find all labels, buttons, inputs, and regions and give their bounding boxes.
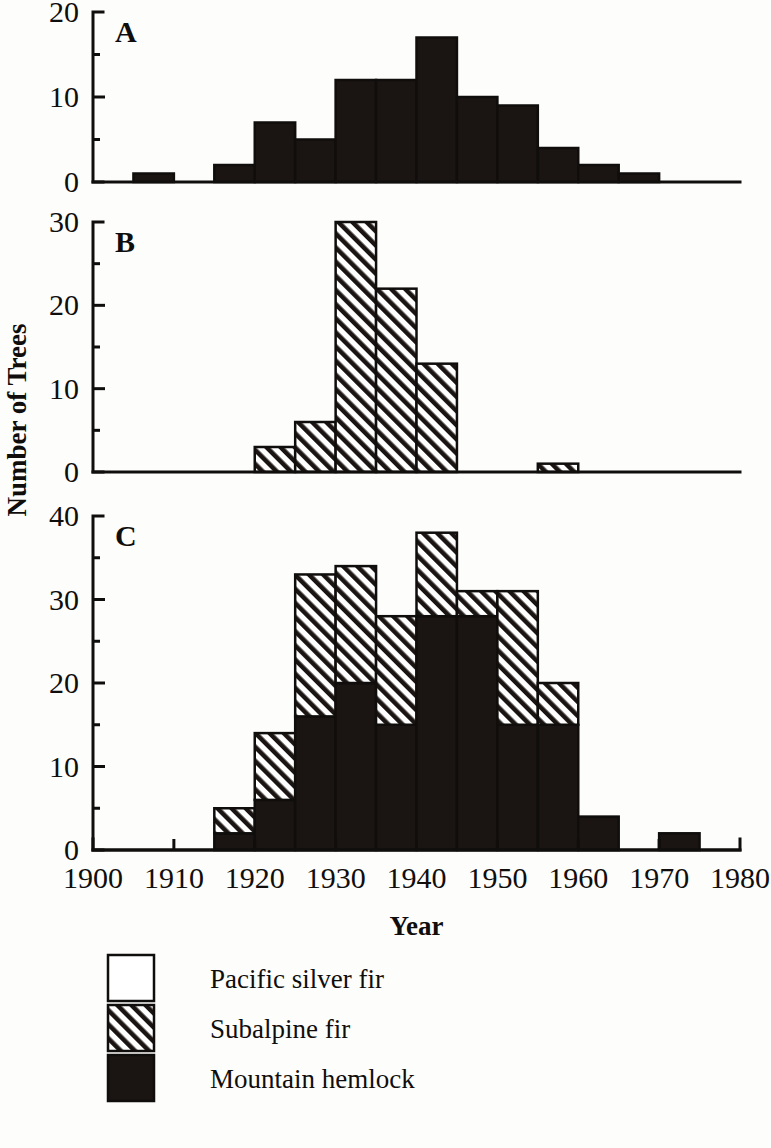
bar	[295, 422, 335, 472]
y-tick-label: 10	[49, 372, 79, 405]
bar-segment	[295, 716, 335, 850]
x-tick-label: 1960	[548, 861, 608, 894]
bar-segment	[417, 533, 457, 617]
bar-segment	[497, 725, 537, 850]
x-tick-label: 1950	[467, 861, 527, 894]
y-tick-label: 40	[49, 499, 79, 532]
bar	[214, 165, 254, 182]
tree-age-structure-figure: 01020A0102030B010203040C1900191019201930…	[0, 0, 771, 1148]
x-tick-label: 1940	[387, 861, 447, 894]
x-tick-label: 1910	[144, 861, 204, 894]
bar	[336, 80, 376, 182]
bar	[255, 447, 295, 472]
x-tick-label: 1980	[710, 861, 770, 894]
legend-swatch-subalpine_fir	[108, 1005, 154, 1051]
bar-segment	[578, 817, 618, 850]
y-tick-label: 20	[49, 288, 79, 321]
bar	[497, 106, 537, 183]
bar-segment	[255, 733, 295, 800]
bar-segment	[538, 725, 578, 850]
y-tick-label: 10	[49, 750, 79, 783]
x-tick-label: 1970	[629, 861, 689, 894]
bar-segment	[659, 833, 699, 850]
figure-container: 01020A0102030B010203040C1900191019201930…	[0, 0, 771, 1148]
bar-segment	[336, 566, 376, 683]
x-axis-title: Year	[390, 911, 444, 941]
y-tick-label: 20	[49, 666, 79, 699]
bar-segment	[214, 808, 254, 833]
bar-segment	[376, 616, 416, 725]
bar-segment	[376, 725, 416, 850]
bar-segment	[336, 683, 376, 850]
y-tick-label: 30	[49, 205, 79, 238]
bar-segment	[214, 833, 254, 850]
bar	[336, 222, 376, 472]
bar	[417, 38, 457, 183]
y-axis-title: Number of Trees	[2, 324, 32, 517]
y-tick-label: 0	[64, 455, 79, 488]
x-tick-label: 1930	[306, 861, 366, 894]
bar-segment	[417, 616, 457, 850]
bar-segment	[457, 616, 497, 850]
y-tick-label: 30	[49, 583, 79, 616]
bar	[376, 80, 416, 182]
legend-label-mountain_hemlock: Mountain hemlock	[210, 1064, 415, 1094]
panel-letter-a: A	[115, 15, 137, 48]
legend-label-pacific_silver_fir: Pacific silver fir	[210, 964, 384, 994]
x-tick-label: 1900	[63, 861, 123, 894]
bar	[295, 140, 335, 183]
y-tick-label: 20	[49, 0, 79, 28]
bar-segment	[295, 574, 335, 716]
legend-swatch-mountain_hemlock	[108, 1055, 154, 1101]
bar	[417, 364, 457, 472]
panel-letter-c: C	[115, 519, 137, 552]
bar	[538, 148, 578, 182]
bar-segment	[457, 591, 497, 616]
bar-segment	[497, 591, 537, 725]
bar-segment	[255, 800, 295, 850]
panel-letter-b: B	[115, 225, 135, 258]
bar-segment	[538, 683, 578, 725]
y-tick-label: 10	[49, 80, 79, 113]
bar	[255, 123, 295, 183]
bar	[457, 97, 497, 182]
legend-swatch-pacific_silver_fir	[108, 955, 154, 1001]
bar	[376, 289, 416, 472]
bar	[578, 165, 618, 182]
y-tick-label: 0	[64, 165, 79, 198]
legend-label-subalpine_fir: Subalpine fir	[210, 1014, 350, 1044]
x-tick-label: 1920	[225, 861, 285, 894]
